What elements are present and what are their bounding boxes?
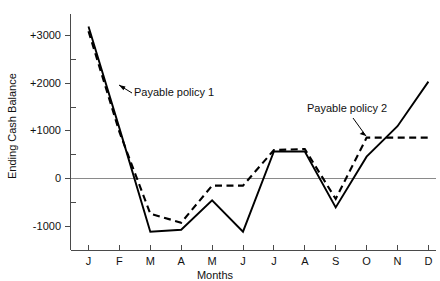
x-axis-ticks bbox=[89, 245, 429, 251]
annotation-policy2-leader bbox=[353, 118, 366, 136]
series-payable-policy-1-line bbox=[89, 27, 429, 232]
line-chart: +3000 +2000 +1000 0 -1000 Ending Cash Ba… bbox=[0, 0, 440, 281]
y-axis-major-ticks bbox=[65, 36, 71, 227]
x-axis-title: Months bbox=[197, 269, 234, 281]
x-tick-label-aug: A bbox=[301, 255, 309, 267]
x-tick-label-mar: M bbox=[146, 255, 155, 267]
y-axis-minor-ticks bbox=[71, 60, 77, 203]
y-axis-title: Ending Cash Balance bbox=[6, 73, 18, 179]
x-tick-label-sep: S bbox=[332, 255, 339, 267]
chart-figure: +3000 +2000 +1000 0 -1000 Ending Cash Ba… bbox=[0, 0, 440, 281]
x-tick-label-oct: O bbox=[362, 255, 371, 267]
x-tick-label-jan: J bbox=[86, 255, 92, 267]
x-tick-label-apr: A bbox=[178, 255, 186, 267]
annotation-policy1-label: Payable policy 1 bbox=[134, 86, 214, 98]
x-tick-label-may: M bbox=[208, 255, 217, 267]
x-tick-label-jun: J bbox=[240, 255, 246, 267]
y-tick-label-3000: +3000 bbox=[30, 29, 61, 41]
y-tick-label-1000: +1000 bbox=[30, 124, 61, 136]
annotation-policy2-label: Payable policy 2 bbox=[307, 102, 387, 114]
y-tick-label-minus1000: -1000 bbox=[33, 220, 61, 232]
x-tick-label-dec: D bbox=[424, 255, 432, 267]
x-tick-label-nov: N bbox=[394, 255, 402, 267]
y-tick-label-0: 0 bbox=[55, 172, 61, 184]
x-tick-label-jul: J bbox=[271, 255, 277, 267]
annotation-policy1-leader bbox=[119, 85, 132, 93]
y-tick-label-2000: +2000 bbox=[30, 77, 61, 89]
x-tick-label-feb: F bbox=[116, 255, 123, 267]
